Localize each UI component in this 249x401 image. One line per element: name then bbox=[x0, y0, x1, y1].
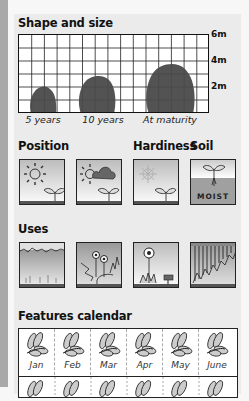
page-edge-stripe bbox=[0, 0, 8, 387]
shrub-maturity bbox=[146, 64, 194, 113]
soil-heading: Soil bbox=[190, 139, 213, 153]
features-calendar-heading: Features calendar bbox=[18, 309, 132, 323]
shrub-10-years bbox=[79, 76, 115, 113]
calendar-cell-apr: Apr bbox=[127, 329, 163, 375]
month-label: June bbox=[199, 360, 235, 370]
calendar-cell-june: June bbox=[199, 329, 235, 375]
x-label-5-years: 5 years bbox=[18, 114, 68, 125]
month-label: Feb bbox=[55, 360, 90, 370]
specimen-icon bbox=[133, 242, 179, 288]
hedge-icon bbox=[19, 242, 65, 288]
position-heading: Position bbox=[18, 139, 69, 153]
foliage-icon bbox=[127, 329, 163, 359]
size-grid-chart bbox=[18, 34, 209, 113]
foliage-icon bbox=[19, 329, 55, 359]
shape-size-heading: Shape and size bbox=[18, 16, 113, 30]
soil-label: MOIST bbox=[191, 192, 235, 201]
features-calendar-grid: Jan Feb Mar Apr May June bbox=[18, 328, 238, 398]
month-label: Apr bbox=[127, 360, 162, 370]
screen-icon bbox=[190, 242, 236, 288]
shrub-5-years bbox=[30, 87, 56, 113]
uses-heading: Uses bbox=[18, 222, 48, 236]
foliage-icon bbox=[199, 329, 235, 359]
month-label: Mar bbox=[91, 360, 126, 370]
calendar-cell-may: May bbox=[163, 329, 199, 375]
foliage-icon bbox=[55, 329, 91, 359]
y-label-6m: 6m bbox=[211, 29, 227, 39]
full-sun-icon bbox=[19, 159, 65, 205]
frost-hardy-icon bbox=[133, 159, 179, 205]
y-label-4m: 4m bbox=[211, 55, 227, 65]
soil-moist-icon: MOIST bbox=[190, 159, 236, 205]
calendar-cell-feb: Feb bbox=[55, 329, 91, 375]
partial-shade-icon bbox=[76, 159, 122, 205]
x-label-10-years: 10 years bbox=[78, 114, 128, 125]
y-label-2m: 2m bbox=[211, 81, 227, 91]
foliage-icon bbox=[163, 329, 199, 359]
border-icon bbox=[76, 242, 122, 288]
calendar-row-2 bbox=[19, 376, 237, 401]
calendar-cell-jan: Jan bbox=[19, 329, 55, 375]
x-label-maturity: At maturity bbox=[140, 114, 200, 125]
foliage-icon bbox=[91, 329, 127, 359]
calendar-cell-mar: Mar bbox=[91, 329, 127, 375]
month-label: Jan bbox=[19, 360, 54, 370]
hardiness-heading: Hardiness bbox=[133, 139, 196, 153]
month-label: May bbox=[163, 360, 198, 370]
